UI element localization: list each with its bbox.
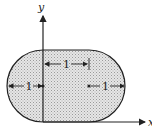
right-center-point xyxy=(87,84,90,87)
left-radius-label: 1 xyxy=(26,80,33,93)
x-axis-label: x xyxy=(148,116,152,129)
top-length-label: 1 xyxy=(63,58,70,71)
stadium-diagram: y x 1 1 1 xyxy=(0,0,152,131)
y-axis-label: y xyxy=(37,1,45,14)
right-radius-label: 1 xyxy=(102,80,109,93)
